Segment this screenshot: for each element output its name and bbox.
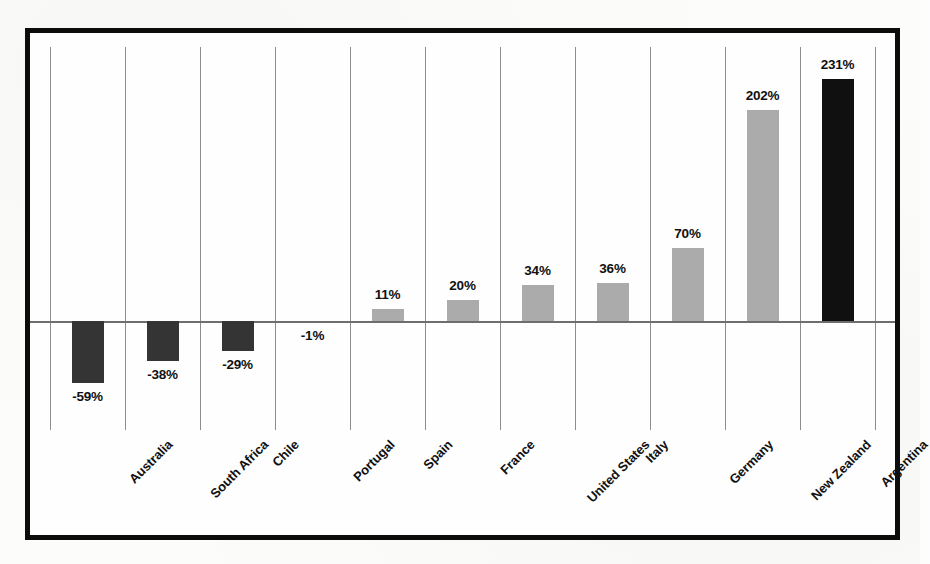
bar-chile bbox=[222, 321, 254, 351]
bar-spain bbox=[372, 309, 404, 321]
bar-value-label: 20% bbox=[428, 278, 498, 293]
category-label-germany: Germany bbox=[726, 437, 776, 487]
gridline bbox=[575, 47, 576, 430]
bar-italy bbox=[597, 283, 629, 321]
category-label-portugal: Portugal bbox=[350, 437, 397, 484]
plot-area: -59%-38%-29%-1%11%20%34%36%70%202%231% A… bbox=[30, 33, 895, 535]
bar-value-label: -59% bbox=[53, 389, 123, 404]
category-label-france: France bbox=[497, 437, 537, 477]
category-label-united-states: United States bbox=[583, 437, 651, 505]
category-label-australia: Australia bbox=[126, 437, 175, 486]
gridline bbox=[350, 47, 351, 430]
bar-new-zealand bbox=[747, 110, 779, 321]
bar-south-africa bbox=[147, 321, 179, 361]
category-label-chile: Chile bbox=[269, 437, 302, 470]
bar-united-states bbox=[522, 285, 554, 321]
bar-value-label: 11% bbox=[353, 287, 423, 302]
bar-value-label: 231% bbox=[803, 57, 873, 72]
bar-value-label: -29% bbox=[203, 357, 273, 372]
bar-value-label: -1% bbox=[278, 328, 348, 343]
gridline bbox=[125, 47, 126, 430]
bar-argentina bbox=[822, 79, 854, 321]
bar-france bbox=[447, 300, 479, 321]
gridline bbox=[725, 47, 726, 430]
gridline bbox=[425, 47, 426, 430]
bar-value-label: -38% bbox=[128, 367, 198, 382]
category-label-spain: Spain bbox=[420, 437, 455, 472]
gridline bbox=[650, 47, 651, 430]
bar-australia bbox=[72, 321, 104, 383]
bar-value-label: 36% bbox=[578, 261, 648, 276]
category-label-south-africa: South Africa bbox=[207, 437, 271, 501]
bar-value-label: 202% bbox=[728, 88, 798, 103]
gridline bbox=[200, 47, 201, 430]
gridline bbox=[50, 47, 51, 430]
gridline bbox=[875, 47, 876, 430]
gridline bbox=[275, 47, 276, 430]
bar-value-label: 34% bbox=[503, 263, 573, 278]
bar-germany bbox=[672, 248, 704, 321]
category-label-new-zealand: New Zealand bbox=[807, 437, 873, 503]
bar-value-label: 70% bbox=[653, 226, 723, 241]
category-label-argentina: Argentina bbox=[877, 437, 930, 490]
gridline bbox=[800, 47, 801, 430]
gridline bbox=[500, 47, 501, 430]
chart-frame: -59%-38%-29%-1%11%20%34%36%70%202%231% A… bbox=[25, 28, 900, 540]
